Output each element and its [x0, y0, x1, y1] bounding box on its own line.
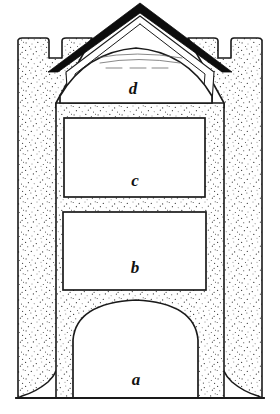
tower-elevation-drawing: d c b a [0, 0, 280, 414]
opening-window-b [63, 212, 206, 290]
figure-canvas: d c b a [0, 0, 280, 414]
label-a: a [132, 370, 141, 389]
label-d: d [129, 79, 138, 98]
label-b: b [131, 258, 140, 277]
label-c: c [131, 171, 139, 190]
